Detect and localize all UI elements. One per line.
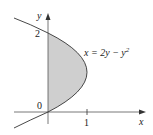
x-tick-label-1: 1 [84,117,89,128]
origin-label: 0 [37,100,42,111]
region-diagram: y x 2 0 1 x = 2y − y2 [0,0,153,135]
y-axis-label: y [36,10,42,21]
equation-label: x = 2y − y2 [83,46,130,58]
y-tick-label-2: 2 [35,28,40,39]
x-axis-arrow-icon [139,110,146,115]
x-axis-label: x [138,116,144,127]
y-axis-arrow-icon [46,13,51,20]
